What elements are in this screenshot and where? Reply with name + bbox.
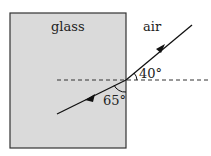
angle-arc-40 — [134, 73, 137, 80]
refraction-diagram — [0, 0, 211, 156]
angle-label-65: 65° — [103, 94, 126, 107]
air-label: air — [143, 20, 161, 33]
glass-label: glass — [51, 20, 85, 33]
angle-label-40: 40° — [139, 67, 162, 80]
